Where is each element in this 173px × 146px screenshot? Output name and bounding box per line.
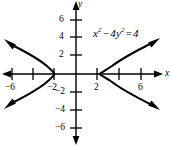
equation-operator: −	[102, 27, 110, 39]
left-branch-upper-arrow-icon	[4, 39, 16, 50]
equation-rhs: 4	[133, 27, 139, 39]
x-tick-label-6: 6	[138, 83, 143, 93]
x-axis-label: x	[165, 69, 169, 79]
x-axis-arrow-left-icon	[2, 71, 11, 78]
y-axis-arrow-down-icon	[73, 136, 80, 145]
y-tick-label-4: 4	[59, 32, 64, 42]
hyperbola-figure: x2−4y2=4 −6 −2 2 6 6 4 2 −2 −4 −6 x y	[0, 0, 173, 146]
y-tick-label-6: 6	[59, 15, 64, 25]
y-tick-label-minus-2: −2	[55, 87, 65, 97]
coordinate-plane-svg	[0, 0, 173, 146]
curve-equation-label: x2−4y2=4	[93, 28, 139, 39]
y-tick-label-2: 2	[59, 50, 64, 60]
y-tick-label-minus-4: −4	[55, 105, 65, 115]
y-axis	[70, 1, 82, 145]
right-branch-lower-arrow-icon	[148, 101, 160, 111]
y-tick-label-minus-6: −6	[55, 123, 65, 133]
equation-equals: =	[125, 27, 133, 39]
x-tick-label-2: 2	[94, 83, 99, 93]
right-branch-upper-arrow-icon	[148, 38, 160, 48]
x-axis-arrow-right-icon	[154, 71, 163, 78]
left-branch-lower-arrow-icon	[4, 99, 16, 110]
x-tick-label-minus-6: −6	[5, 83, 15, 93]
y-axis-label: y	[78, 0, 82, 10]
x-axis	[2, 68, 163, 80]
